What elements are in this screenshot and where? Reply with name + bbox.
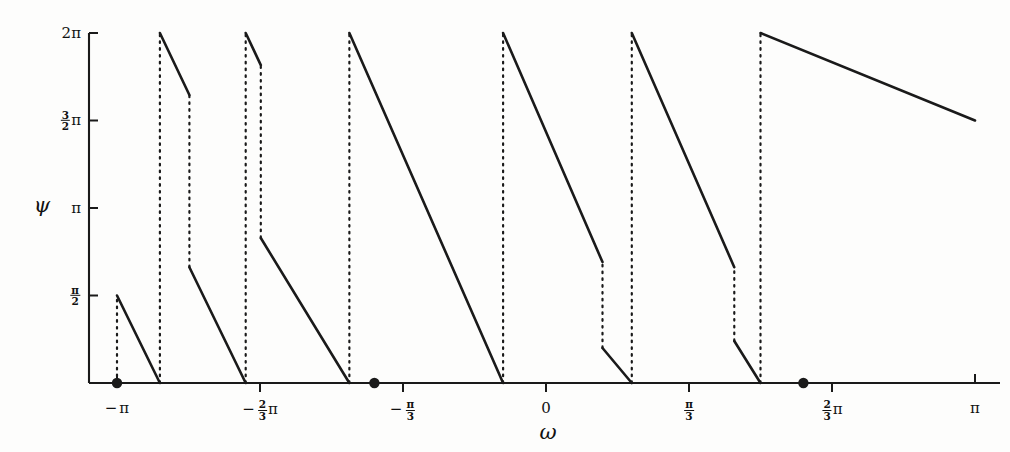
axis-point-marker <box>112 378 122 388</box>
curve-branch <box>246 33 261 65</box>
curve-branch <box>160 33 190 95</box>
curve-branch <box>602 348 631 383</box>
y-tick-label: 2π <box>62 24 81 42</box>
x-tick-label: 23π <box>821 399 842 421</box>
x-tick-label: 0 <box>541 399 551 417</box>
x-tick-label: −π3 <box>390 399 416 421</box>
y-tick-label: π <box>71 199 81 217</box>
phase-plot-figure <box>0 0 1010 452</box>
curve-branch <box>761 33 976 121</box>
psi-axis-label: ψ <box>34 193 50 217</box>
curve-branch <box>189 267 245 383</box>
y-tick-label: 32π <box>60 109 81 131</box>
x-tick-label: −23π <box>242 399 278 421</box>
curve-branch <box>261 238 350 383</box>
x-tick-label: π <box>970 399 980 417</box>
curve-branch <box>503 33 602 262</box>
tick-layer <box>89 33 975 392</box>
y-tick-label: π2 <box>69 284 81 306</box>
axis-layer <box>89 33 1000 383</box>
curve-branch <box>734 341 760 383</box>
axis-point-marker <box>369 378 379 388</box>
curve-branch <box>632 33 734 267</box>
discontinuity-jump-layer <box>117 33 761 383</box>
axis-point-marker <box>798 378 808 388</box>
curve-branch <box>117 296 160 384</box>
x-tick-label: −π <box>105 399 129 417</box>
curve-branch <box>349 33 503 383</box>
x-tick-label: π3 <box>683 399 695 421</box>
omega-axis-label: ω <box>539 420 556 444</box>
sawtooth-curve-layer <box>117 33 975 383</box>
